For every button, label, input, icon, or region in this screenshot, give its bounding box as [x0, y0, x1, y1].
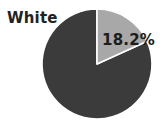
slice-percentage-label: 18.2%: [102, 33, 155, 48]
series-label: White: [7, 11, 58, 26]
pie-chart-figure: White 18.2%: [0, 0, 165, 128]
pie-slices-group: [42, 9, 152, 119]
